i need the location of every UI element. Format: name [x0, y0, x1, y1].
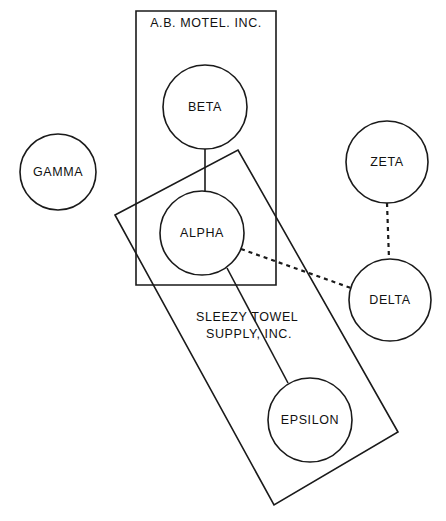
boundary-sleezy-towel[interactable]: SLEEZY TOWEL SUPPLY, INC.: [115, 150, 398, 505]
boundary-sleezy-towel-label: SLEEZY TOWEL SUPPLY, INC.: [196, 310, 302, 341]
node-delta[interactable]: DELTA: [349, 259, 431, 341]
node-epsilon[interactable]: EPSILON: [268, 378, 352, 462]
boundary-sleezy-towel-label-line-1: SLEEZY TOWEL: [196, 310, 298, 324]
boundary-ab-motel-label: A.B. MOTEL. INC.: [150, 16, 262, 30]
node-zeta-label: ZETA: [370, 155, 403, 169]
node-delta-label: DELTA: [369, 293, 410, 307]
node-alpha-label: ALPHA: [180, 226, 224, 240]
edge-alpha-delta[interactable]: [241, 249, 351, 288]
node-beta[interactable]: BETA: [163, 65, 247, 149]
node-alpha[interactable]: ALPHA: [160, 191, 244, 275]
node-epsilon-label: EPSILON: [281, 413, 339, 427]
boundary-sleezy-towel-label-line-2: SUPPLY, INC.: [206, 327, 292, 341]
edge-zeta-delta[interactable]: [387, 203, 389, 259]
node-gamma-label: GAMMA: [33, 165, 83, 179]
node-beta-label: BETA: [188, 100, 222, 114]
diagram-root: A.B. MOTEL. INC. SLEEZY TOWEL SUPPLY, IN…: [0, 0, 446, 521]
boundary-ab-motel-label-line-1: A.B. MOTEL. INC.: [150, 16, 262, 30]
diagram-canvas: A.B. MOTEL. INC. SLEEZY TOWEL SUPPLY, IN…: [0, 0, 446, 521]
node-gamma[interactable]: GAMMA: [20, 134, 96, 210]
node-zeta[interactable]: ZETA: [346, 121, 428, 203]
